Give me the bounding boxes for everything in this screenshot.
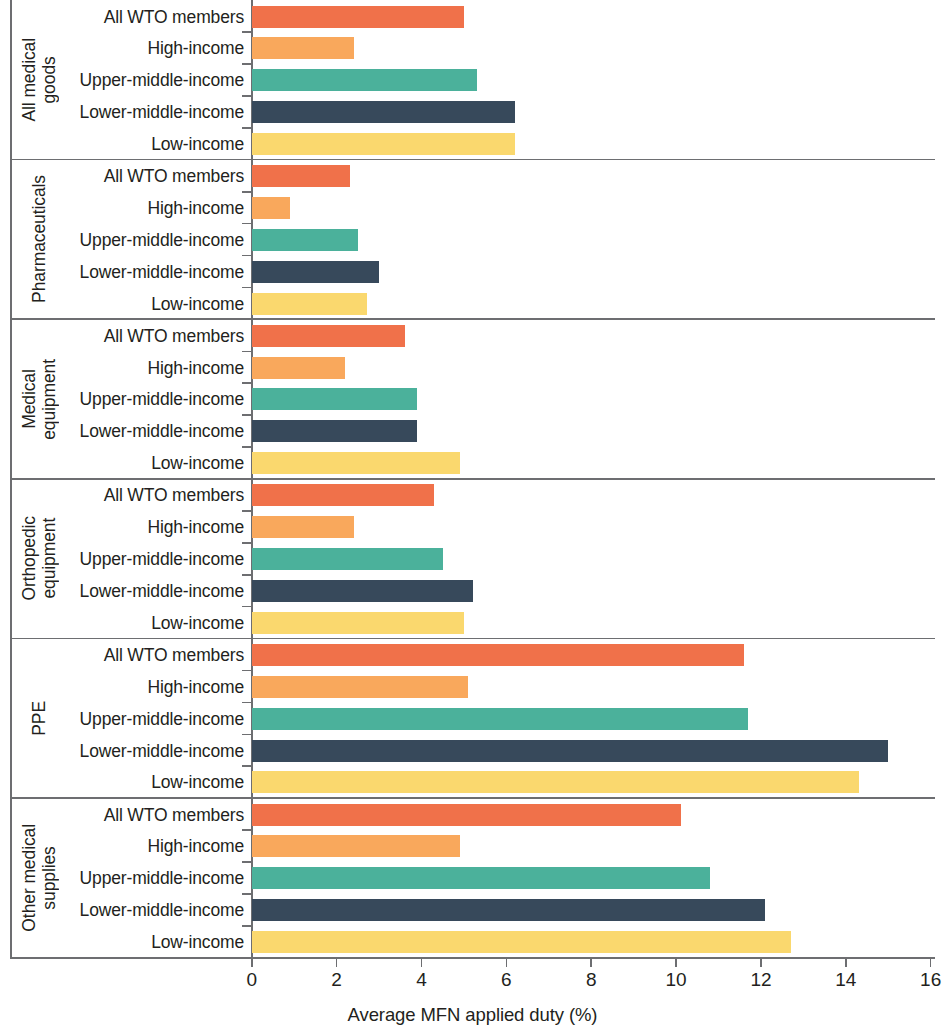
category-band: PharmaceuticalsAll WTO membersHigh-incom… <box>10 160 935 320</box>
category-band: Medical equipmentAll WTO membersHigh-inc… <box>10 319 935 479</box>
x-axis-tick-label: 4 <box>392 969 452 991</box>
group-separator <box>10 638 935 640</box>
x-axis-tick-label: 16 <box>901 969 945 991</box>
x-axis-tick <box>930 958 932 967</box>
x-axis-tick-label: 6 <box>476 969 536 991</box>
bar-row-label: All WTO members <box>104 1 244 33</box>
y-axis-tick <box>242 31 252 33</box>
bar-row-label: All WTO members <box>104 320 244 352</box>
y-axis-tick <box>242 765 252 767</box>
bar-row-label: Lower-middle-income <box>80 415 244 447</box>
x-axis-title: Average MFN applied duty (%) <box>0 1004 945 1026</box>
bar-row: All WTO members <box>10 160 935 192</box>
bar-row: Lower-middle-income <box>10 256 935 288</box>
group-separator <box>10 797 935 799</box>
bar <box>252 37 354 59</box>
bar-row-label: All WTO members <box>104 639 244 671</box>
group-separator <box>10 478 935 480</box>
bar <box>252 133 515 155</box>
x-axis-tick <box>251 958 253 967</box>
y-axis-tick <box>242 63 252 65</box>
bar-row: All WTO members <box>10 1 935 33</box>
category-band: All medical goodsAll WTO membersHigh-inc… <box>10 0 935 160</box>
bar <box>252 899 765 921</box>
bar <box>252 101 515 123</box>
bar-row-label: Upper-middle-income <box>80 383 244 415</box>
bar <box>252 867 710 889</box>
bar <box>252 676 468 698</box>
bar-row: All WTO members <box>10 320 935 352</box>
bar-row: Lower-middle-income <box>10 575 935 607</box>
bar-row-label: Lower-middle-income <box>80 96 244 128</box>
x-axis-tick <box>336 958 338 967</box>
y-axis-tick <box>242 670 252 672</box>
x-axis-tick <box>760 958 762 967</box>
bar-row: All WTO members <box>10 799 935 831</box>
bar-row-label: Lower-middle-income <box>80 575 244 607</box>
x-axis-tick-label: 0 <box>222 969 282 991</box>
bar-row: Low-income <box>10 128 935 160</box>
bar <box>252 804 681 826</box>
bar <box>252 388 417 410</box>
y-axis-tick <box>242 510 252 512</box>
bar <box>252 580 473 602</box>
bar-row-label: All WTO members <box>104 799 244 831</box>
bar-row: Lower-middle-income <box>10 894 935 926</box>
bar-row-label: All WTO members <box>104 160 244 192</box>
y-axis-tick <box>242 223 252 225</box>
bar <box>252 484 434 506</box>
x-axis-tick <box>506 958 508 967</box>
bar <box>252 229 358 251</box>
bar <box>252 516 354 538</box>
x-axis-tick-label: 8 <box>561 969 621 991</box>
bar <box>252 548 443 570</box>
bar <box>252 644 744 666</box>
bar-row-label: High-income <box>147 352 244 384</box>
x-axis-tick <box>845 958 847 967</box>
bar-row-label: Low-income <box>151 128 244 160</box>
bar-row-label: High-income <box>147 830 244 862</box>
bar <box>252 835 460 857</box>
bar <box>252 452 460 474</box>
y-axis-tick <box>242 287 252 289</box>
bar-row-label: Lower-middle-income <box>80 256 244 288</box>
bar <box>252 165 350 187</box>
bar <box>252 420 417 442</box>
y-axis-tick <box>242 925 252 927</box>
bar-row: Low-income <box>10 288 935 320</box>
bar <box>252 931 791 953</box>
bar-row: Upper-middle-income <box>10 543 935 575</box>
bar-row: Lower-middle-income <box>10 96 935 128</box>
bar-row: High-income <box>10 32 935 64</box>
bar-row: High-income <box>10 352 935 384</box>
y-axis-tick <box>242 127 252 129</box>
x-axis-tick-label: 2 <box>307 969 367 991</box>
bar <box>252 261 379 283</box>
group-separator <box>10 318 935 320</box>
category-band: PPEAll WTO membersHigh-incomeUpper-middl… <box>10 638 935 798</box>
bar-row-label: Low-income <box>151 766 244 798</box>
y-axis-tick <box>242 351 252 353</box>
bar-row: High-income <box>10 511 935 543</box>
y-axis-tick <box>242 574 252 576</box>
bar-row-label: Upper-middle-income <box>80 862 244 894</box>
bar-row: Upper-middle-income <box>10 703 935 735</box>
bar-row-label: High-income <box>147 32 244 64</box>
bar <box>252 6 464 28</box>
y-axis-tick <box>242 191 252 193</box>
bar-row: Upper-middle-income <box>10 862 935 894</box>
bar-row: Low-income <box>10 766 935 798</box>
bar-row-label: All WTO members <box>104 479 244 511</box>
x-axis-tick <box>421 958 423 967</box>
bar-row-label: Low-income <box>151 288 244 320</box>
bar-row: All WTO members <box>10 639 935 671</box>
bar-row-label: High-income <box>147 192 244 224</box>
bar-row: Lower-middle-income <box>10 735 935 767</box>
bar <box>252 771 859 793</box>
bar-row-label: Lower-middle-income <box>80 735 244 767</box>
x-axis-tick-label: 12 <box>731 969 791 991</box>
x-axis: 0246810121416 Average MFN applied duty (… <box>0 958 945 1024</box>
bar <box>252 708 748 730</box>
x-axis-tick <box>590 958 592 967</box>
